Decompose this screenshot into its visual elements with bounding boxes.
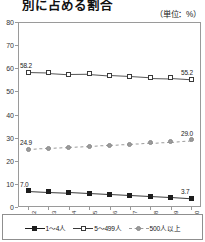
data-point-marker [107,143,112,148]
data-point-marker [189,77,194,82]
data-point-marker [107,192,112,197]
data-point-marker [127,193,132,198]
chart-container: 別に占める割合 （単位：%） 0102030405060708020122013… [0,0,205,242]
chart-legend: 1～4人5～499人500人以上 [2,214,203,240]
data-point-marker [127,142,132,147]
x-axis-tick-mark [150,207,151,210]
series-line-segment [171,140,191,143]
data-point-marker [168,139,173,144]
unit-note: （単位：%） [155,7,201,19]
data-point-marker [26,147,31,152]
x-axis-tick-mark [130,207,131,210]
x-axis-tick-mark [48,207,49,210]
data-point-label: 55.2 [181,70,193,77]
data-point-marker [26,70,31,75]
data-point-marker [26,188,31,193]
data-point-marker [127,74,132,79]
x-axis-tick-mark [171,207,172,210]
y-axis-tick-mark [15,184,18,185]
y-axis-tick-mark [15,22,18,23]
x-axis-tick-mark [89,207,90,210]
data-point-label: 58.2 [20,63,32,70]
data-point-label: 3.7 [181,189,189,196]
data-point-marker [66,72,71,77]
data-point-marker [168,195,173,200]
data-point-marker [148,140,153,145]
data-point-marker [148,194,153,199]
legend-symbol-icon [73,225,93,232]
page-title: 別に占める割合 [22,0,113,11]
y-axis-tick-mark [15,115,18,116]
data-point-marker [46,70,51,75]
legend-symbol-icon [129,225,149,232]
legend-item-label: 500人以上 [150,223,181,233]
legend-symbol-icon [25,225,45,232]
x-axis-tick-mark [69,207,70,210]
data-point-label: 7.0 [20,182,28,189]
legend-item[interactable]: 500人以上 [129,223,181,233]
data-point-marker [66,190,71,195]
data-point-label: 29.0 [181,131,193,138]
y-axis-tick-mark [15,138,18,139]
legend-item-label: 1～4人 [46,223,67,233]
data-point-marker [148,75,153,80]
data-point-label: 24.9 [20,140,32,147]
y-axis-tick-mark [15,45,18,46]
x-axis-tick-mark [28,207,29,210]
data-point-marker [87,144,92,149]
data-point-marker [87,191,92,196]
plot-area: 0102030405060708020122013201420152016201… [18,22,201,207]
data-point-marker [107,73,112,78]
legend-item[interactable]: 5～499人 [73,223,121,233]
y-axis-tick-mark [15,91,18,92]
y-axis-tick-mark [15,207,18,208]
data-point-marker [87,71,92,76]
y-axis-tick-mark [15,68,18,69]
x-axis-tick-mark [191,207,192,210]
legend-item[interactable]: 1～4人 [25,223,67,233]
data-point-marker [168,75,173,80]
data-point-marker [46,189,51,194]
y-axis-tick-mark [15,161,18,162]
data-point-marker [189,137,194,142]
data-point-marker [66,145,71,150]
data-point-marker [46,146,51,151]
x-axis-tick-mark [110,207,111,210]
legend-item-label: 5～499人 [94,223,121,233]
data-point-marker [189,196,194,201]
